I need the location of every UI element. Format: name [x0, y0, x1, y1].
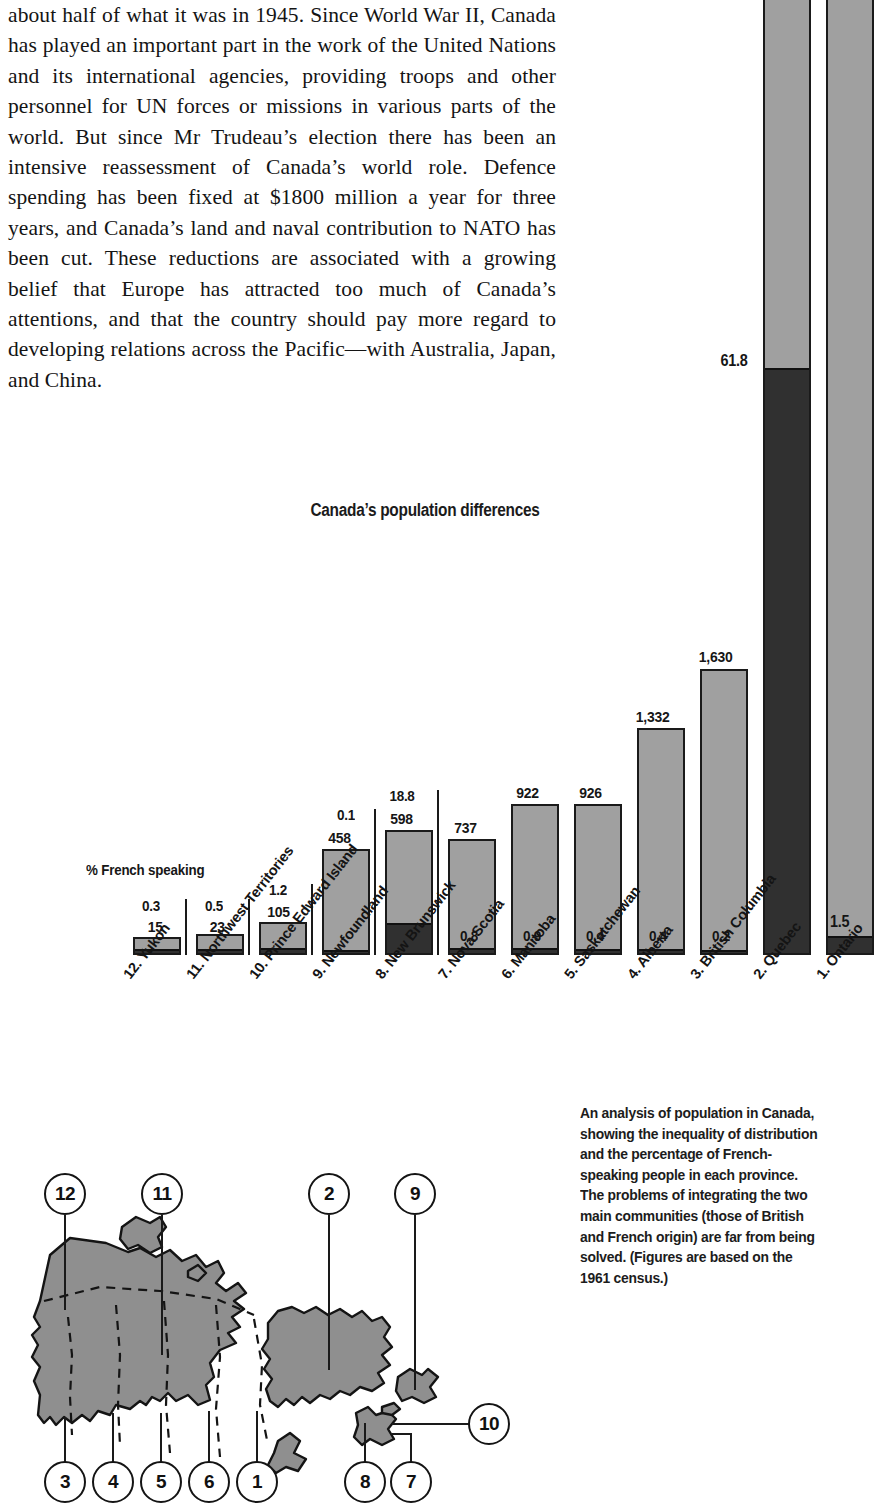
bar-value-saskatchewan: 926 — [579, 784, 601, 802]
bar-value-nova-scotia: 737 — [454, 819, 476, 837]
leader-line-4 — [112, 1413, 114, 1465]
map-callout-11[interactable]: 11 — [141, 1173, 183, 1215]
map-callout-3[interactable]: 3 — [44, 1461, 86, 1503]
bar-pct-yukon: 0.3 — [142, 897, 160, 914]
map-callout-5[interactable]: 5 — [140, 1461, 182, 1503]
leader-line-2 — [328, 1215, 330, 1370]
bar-value-british-columbia: 1,630 — [699, 648, 733, 666]
leader-line-9 — [414, 1215, 416, 1390]
leader-line-5 — [160, 1413, 162, 1465]
canada-map: 12 11 2 9 10 3 4 5 6 1 8 7 — [10, 1105, 570, 1493]
pct-french-legend: % French speaking — [86, 862, 204, 878]
map-callout-4[interactable]: 4 — [92, 1461, 134, 1503]
bar-pct-newfoundland: 0.1 — [337, 806, 355, 823]
french-segment-quebec — [765, 368, 809, 953]
leader-line-11 — [161, 1215, 163, 1355]
bar-pct-new-brunswick: 18.8 — [389, 787, 414, 804]
bar-chart: % French speaking 15 0.3 23 0.5 105 1.2 … — [0, 0, 850, 960]
map-callout-8[interactable]: 8 — [344, 1461, 386, 1503]
bar-quebec[interactable] — [763, 0, 811, 955]
bar-alberta[interactable] — [637, 728, 685, 955]
leader-line-8 — [364, 1423, 366, 1465]
leader-line-1 — [256, 1411, 258, 1465]
leader-line-newfoundland — [374, 809, 376, 955]
bar-value-manitoba: 922 — [516, 784, 538, 802]
bar-pct-northwest-territories: 0.5 — [205, 897, 223, 914]
map-callout-6[interactable]: 6 — [188, 1461, 230, 1503]
leader-line-10 — [392, 1423, 470, 1425]
map-callout-9[interactable]: 9 — [394, 1173, 436, 1215]
bar-value-new-brunswick: 598 — [390, 810, 412, 828]
leader-line-3 — [64, 1417, 66, 1465]
bar-value-alberta: 1,332 — [636, 708, 670, 726]
leader-line-6 — [208, 1411, 210, 1465]
bar-ontario[interactable] — [826, 0, 874, 955]
leader-line-7-h — [392, 1433, 412, 1435]
figure-caption: An analysis of population in Canada, sho… — [580, 1103, 825, 1288]
bar-pct-quebec: 61.8 — [720, 352, 747, 370]
map-callout-1[interactable]: 1 — [236, 1461, 278, 1503]
leader-line-new-brunswick — [437, 790, 439, 955]
map-callout-7[interactable]: 7 — [390, 1461, 432, 1503]
map-callout-12[interactable]: 12 — [44, 1173, 86, 1215]
leader-line-yukon — [185, 899, 187, 955]
map-callout-10[interactable]: 10 — [468, 1403, 510, 1445]
leader-line-12 — [64, 1215, 66, 1310]
map-callout-2[interactable]: 2 — [308, 1173, 350, 1215]
